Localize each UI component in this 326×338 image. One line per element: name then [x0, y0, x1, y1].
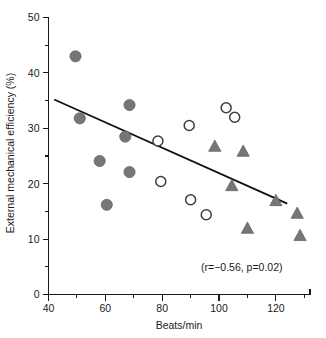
data-point-filled-triangle — [291, 207, 303, 218]
data-point-open-circle — [184, 121, 194, 131]
y-tick-label: 40 — [28, 67, 40, 79]
data-point-filled-circle — [74, 113, 85, 124]
scatter-plot: 01020304050406080100120 Beats/min Extern… — [0, 0, 326, 338]
data-point-filled-triangle — [209, 140, 221, 151]
data-point-filled-circle — [101, 199, 112, 210]
data-point-filled-circle — [124, 99, 135, 110]
x-tick-label: 60 — [100, 302, 112, 314]
trend-line — [54, 99, 287, 203]
data-point-open-circle — [201, 210, 211, 220]
data-point-open-circle — [230, 112, 240, 122]
y-tick-label: 30 — [28, 122, 40, 134]
data-points-group — [70, 51, 306, 241]
data-point-filled-triangle — [237, 145, 249, 156]
x-tick-label: 100 — [210, 302, 228, 314]
data-point-filled-circle — [124, 166, 135, 177]
x-tick-label: 40 — [43, 302, 55, 314]
y-tick-label: 10 — [28, 233, 40, 245]
y-tick-label: 0 — [34, 288, 40, 300]
x-tick-label: 80 — [156, 302, 168, 314]
data-point-open-circle — [156, 176, 166, 186]
data-point-filled-triangle — [294, 229, 306, 240]
axes-group — [43, 18, 311, 301]
data-point-open-circle — [186, 195, 196, 205]
data-point-filled-triangle — [241, 222, 253, 233]
data-point-open-circle — [153, 136, 163, 146]
y-tick-label: 50 — [28, 11, 40, 23]
x-axis-title: Beats/min — [156, 319, 203, 331]
y-tick-label: 20 — [28, 178, 40, 190]
trendline-group — [54, 99, 287, 203]
data-point-filled-circle — [120, 131, 131, 142]
correlation-annotation: (r=−0.56, p=0.02) — [201, 261, 282, 273]
data-point-filled-circle — [70, 51, 81, 62]
y-axis-title: External mechanical efficiency (%) — [4, 73, 16, 233]
x-tick-label: 120 — [267, 302, 285, 314]
data-point-open-circle — [221, 103, 231, 113]
chart-figure: 01020304050406080100120 Beats/min Extern… — [0, 0, 326, 338]
data-point-filled-circle — [94, 155, 105, 166]
